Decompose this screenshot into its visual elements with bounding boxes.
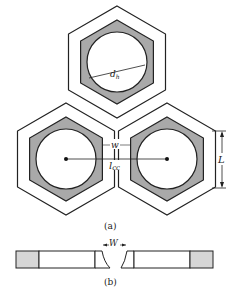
left-center-dot (64, 157, 68, 161)
left-wall-block (95, 251, 110, 268)
side-length-label: L (217, 154, 225, 165)
cross-section (16, 251, 213, 268)
caption-a: (a) (104, 221, 116, 231)
right-center-dot (165, 157, 169, 161)
right-gray-block (190, 251, 213, 268)
wall-width-label: W (109, 238, 119, 248)
caption-b: (b) (104, 277, 117, 287)
left-white-block (39, 251, 95, 268)
top-cell (69, 6, 166, 118)
wall-width-annotation: W (103, 238, 126, 248)
right-wall-block (121, 251, 134, 268)
wall-label: w (111, 140, 119, 150)
hexagon-cells (18, 6, 216, 215)
hole-circle (87, 32, 147, 92)
left-gray-block (16, 251, 39, 268)
right-white-block (134, 251, 190, 268)
honeycomb-diagram: dh lcc w L (a) W (0, 0, 234, 297)
